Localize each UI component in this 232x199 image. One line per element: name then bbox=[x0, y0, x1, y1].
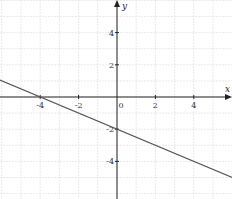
coordinate-plane: x y -4-202442-2-4 bbox=[0, 0, 232, 199]
x-tick-label: -2 bbox=[75, 101, 83, 110]
axes: x y bbox=[0, 0, 232, 199]
line-series bbox=[0, 80, 232, 177]
y-tick-label: -4 bbox=[106, 157, 114, 166]
grid-lines bbox=[0, 0, 232, 199]
y-axis-label: y bbox=[121, 1, 128, 11]
x-axis-arrow-icon bbox=[225, 94, 232, 100]
x-tick-label: 2 bbox=[153, 101, 158, 110]
data-series bbox=[0, 80, 232, 177]
x-tick-label: -4 bbox=[36, 101, 44, 110]
x-tick-label: 4 bbox=[191, 101, 196, 110]
x-axis-label: x bbox=[225, 84, 230, 94]
y-tick-label: 2 bbox=[109, 61, 114, 70]
y-axis-arrow-icon bbox=[114, 0, 120, 7]
x-tick-label: 0 bbox=[118, 101, 123, 110]
y-tick-label: 4 bbox=[109, 29, 114, 38]
